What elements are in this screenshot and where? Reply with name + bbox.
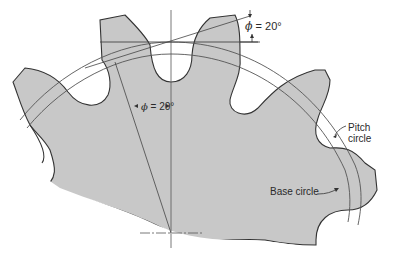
pressure-angle-value: = 20° (256, 20, 282, 32)
pitch-circle-leader (335, 126, 346, 135)
base-circle-label: Base circle (270, 187, 319, 197)
arrowhead-icon (248, 14, 252, 18)
pressure-angle-label-top: ϕ = 20° (245, 21, 282, 32)
phi-symbol: ϕ (141, 101, 148, 112)
pitch-circle-label-line2: circle (348, 133, 371, 144)
gear-diagram: ϕ = 20° ϕ = 20° Pitch circle Base circle (0, 0, 394, 257)
phi-symbol: ϕ (245, 20, 253, 33)
pressure-angle-label-mid: ϕ = 20° (141, 102, 174, 112)
pitch-circle-label: Pitch circle (348, 122, 371, 144)
pitch-circle-label-line1: Pitch (348, 122, 371, 133)
pressure-angle-value: = 20° (151, 101, 175, 112)
arrowhead-icon (250, 34, 254, 38)
gear-drawing (0, 0, 394, 257)
